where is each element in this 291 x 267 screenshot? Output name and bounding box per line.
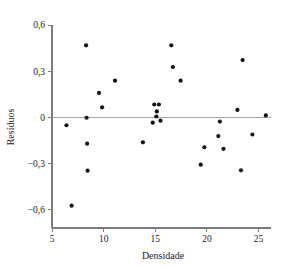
data-point (152, 102, 156, 106)
data-point (113, 79, 117, 83)
data-point (85, 142, 89, 146)
data-point (250, 132, 254, 136)
data-point (100, 105, 104, 109)
y-axis-ticks: 0,60,30−0,3−0,6 (28, 20, 52, 215)
data-point (221, 147, 225, 151)
data-points-layer (64, 43, 268, 208)
data-point (169, 43, 173, 47)
data-point (199, 163, 203, 167)
data-point (70, 204, 74, 208)
data-point (85, 116, 89, 120)
x-tick-label: 20 (202, 234, 212, 244)
axis-lines (52, 25, 271, 228)
y-tick-label: −0,6 (28, 205, 45, 215)
y-tick-label: 0,6 (33, 20, 45, 30)
y-axis-title: Resíduos (5, 109, 16, 146)
y-tick-label: 0,3 (33, 67, 45, 77)
x-tick-label: 15 (151, 234, 161, 244)
data-point (157, 102, 161, 106)
data-point (216, 134, 220, 138)
data-point (84, 43, 88, 47)
y-tick-label: −0,3 (28, 159, 45, 169)
x-axis-title: Densidade (142, 250, 185, 261)
plot-canvas: 0,60,30−0,3−0,6 510152025 Densidade Resí… (0, 0, 291, 267)
data-point (97, 91, 101, 95)
data-point (239, 168, 243, 172)
residual-scatter-figure: 0,60,30−0,3−0,6 510152025 Densidade Resí… (0, 0, 291, 267)
data-point (141, 140, 145, 144)
data-point (235, 108, 239, 112)
y-tick-label: 0 (40, 113, 45, 123)
data-point (264, 113, 268, 117)
data-point (155, 109, 159, 113)
x-tick-label: 5 (50, 234, 55, 244)
data-point (86, 169, 90, 173)
data-point (64, 123, 68, 127)
data-point (218, 119, 222, 123)
x-axis-ticks: 510152025 (50, 228, 264, 244)
x-tick-label: 10 (99, 234, 109, 244)
data-point (151, 121, 155, 125)
data-point (179, 79, 183, 83)
data-point (202, 145, 206, 149)
data-point (158, 119, 162, 123)
data-point (240, 58, 244, 62)
data-point (171, 65, 175, 69)
data-point (154, 114, 158, 118)
x-tick-label: 25 (254, 234, 264, 244)
